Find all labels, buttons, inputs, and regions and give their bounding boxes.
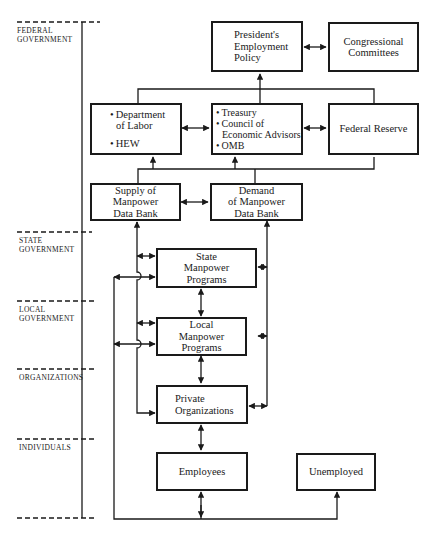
node-text: Organizations [175,405,246,417]
node-text: Treasury [216,107,301,118]
node-text: Congressional [343,36,403,48]
node-text: Manpower [113,196,159,208]
node-text: Council of [216,118,301,129]
node-text: Data Bank [113,208,158,220]
level-label-organizations: ORGANIZATIONS [19,373,83,382]
node-text: Manpower [179,331,225,343]
node-text: of Labor [110,120,180,132]
level-line: ORGANIZATIONS [19,373,83,382]
level-line: LOCAL [19,305,75,314]
node-text: Programs [186,274,226,286]
node-department-of-labor-hew: Department of Labor HEW [90,103,182,155]
level-line: GOVERNMENT [19,314,75,323]
level-label-state: STATE GOVERNMENT [19,236,75,254]
node-demand-of-manpower-data-bank: Demand of Manpower Data Bank [210,183,303,221]
node-text: Economic Advisors [216,129,301,140]
node-text: Data Bank [234,208,279,220]
node-private-organizations: Private Organizations [156,385,248,424]
node-supply-of-manpower-data-bank: Supply of Manpower Data Bank [90,183,181,221]
node-employees: Employees [156,452,248,491]
node-text: of Manpower [228,196,285,208]
node-text: Manpower [184,262,230,274]
node-text: HEW [110,138,180,150]
level-line: GOVERNMENT [19,245,75,254]
node-text: Private [175,393,246,405]
node-text: Department [110,109,180,121]
node-text: Demand [239,185,275,197]
level-line: FEDERAL [17,26,73,35]
node-text: Employment [234,41,301,53]
node-unemployed: Unemployed [296,453,376,491]
node-text: Federal Reserve [340,123,408,135]
node-text: Committees [348,47,399,59]
level-line: GOVERNMENT [17,35,73,44]
node-local-manpower-programs: Local Manpower Programs [156,317,247,356]
level-label-local: LOCAL GOVERNMENT [19,305,75,323]
node-text: OMB [216,140,301,151]
node-text: Supply of [115,185,156,197]
level-line: STATE [19,236,75,245]
node-text: State [196,251,217,263]
level-label-individuals: INDIVIDUALS [19,443,71,452]
node-presidents-employment-policy: President's Employment Policy [211,21,303,72]
node-text: Policy [234,52,301,64]
node-state-manpower-programs: State Manpower Programs [156,248,257,288]
node-text: Unemployed [309,466,363,478]
level-line: INDIVIDUALS [19,443,71,452]
node-treasury-cea-omb: Treasury Council of Economic Advisors OM… [211,103,303,155]
node-text: Programs [181,342,221,354]
node-text: Local [190,319,214,331]
node-text: Employees [179,466,226,478]
node-text: President's [234,29,301,41]
node-congressional-committees: Congressional Committees [328,22,419,72]
node-federal-reserve: Federal Reserve [328,103,419,155]
level-label-federal: FEDERAL GOVERNMENT [17,26,73,44]
